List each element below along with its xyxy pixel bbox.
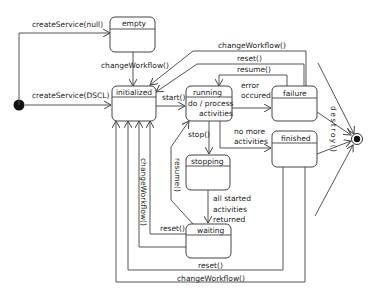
svg-text:changeWorkflow(): changeWorkflow() (177, 274, 245, 283)
svg-text:changeWorkflow(): changeWorkflow() (101, 61, 169, 70)
svg-text:no more: no more (234, 127, 266, 136)
state-empty: empty (110, 17, 155, 52)
svg-text:start(): start() (162, 93, 185, 102)
final-state (352, 134, 363, 145)
state-waiting: waiting (186, 224, 231, 258)
transition-no-more-activities: no more activities (220, 121, 271, 148)
svg-text:reset(): reset() (237, 54, 262, 63)
svg-text:finished: finished (281, 134, 311, 143)
state-diagram: createService(null) createService(DSCL) … (0, 0, 379, 297)
transition-all-started-returned: all started activities returned (208, 190, 251, 224)
svg-text:destroy(): destroy() (329, 106, 338, 154)
svg-text:initialized: initialized (116, 88, 152, 97)
svg-text:reset(): reset() (198, 261, 223, 270)
svg-text:error: error (241, 81, 260, 90)
svg-text:returned: returned (213, 215, 246, 224)
state-failure: failure (272, 86, 317, 121)
svg-text:stop(): stop() (188, 130, 210, 139)
svg-text:resume(): resume() (173, 158, 182, 192)
svg-text:activities: activities (199, 109, 233, 118)
state-stopping: stopping (186, 155, 230, 190)
transition-start: start() (156, 93, 185, 106)
svg-text:createService(null): createService(null) (32, 20, 103, 29)
svg-text:all started: all started (213, 194, 251, 203)
transition-create-dscl: createService(DSCL) (25, 91, 111, 105)
svg-text:resume(): resume() (237, 65, 271, 74)
svg-text:failure: failure (283, 89, 307, 98)
svg-text:changeWorkflow(): changeWorkflow() (218, 41, 286, 50)
state-initialized: initialized (112, 86, 156, 121)
state-finished: finished (272, 131, 317, 167)
svg-text:occured: occured (241, 91, 271, 100)
transition-destroy: destroy() (315, 63, 354, 216)
state-running: running do / process activities (186, 86, 234, 121)
svg-text:activities: activities (234, 137, 268, 146)
svg-text:stopping: stopping (191, 157, 224, 166)
svg-text:waiting: waiting (197, 226, 225, 235)
svg-text:createService(DSCL): createService(DSCL) (32, 91, 109, 100)
svg-text:changeWorkflow(): changeWorkflow() (139, 158, 148, 226)
transition-error: error occured (232, 81, 271, 108)
transition-stop: stop() (188, 121, 210, 154)
svg-text:activities: activities (213, 205, 247, 214)
svg-text:empty: empty (122, 19, 147, 28)
transition-empty-change-workflow: changeWorkflow() (101, 52, 169, 86)
svg-text:reset(): reset() (160, 224, 185, 233)
svg-text:running: running (193, 88, 222, 97)
svg-text:do / process: do / process (188, 99, 234, 108)
